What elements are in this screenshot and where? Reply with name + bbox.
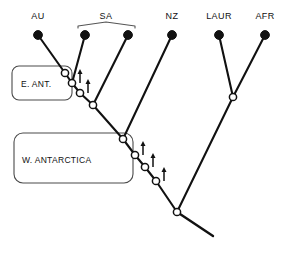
bracket-label-sa: SA — [100, 11, 113, 21]
root-stem-group — [177, 212, 213, 236]
sa-grouping-bracket — [78, 22, 135, 28]
tip-label-nz: NZ — [166, 11, 179, 21]
internal-node-n8 — [152, 177, 159, 184]
branch-b-n4-n5 — [93, 105, 123, 139]
tip-label-laur: LAUR — [206, 11, 232, 21]
internal-node-n1 — [61, 69, 68, 76]
internal-node-n6 — [131, 151, 138, 158]
node-arrow-head-n6 — [141, 141, 146, 146]
tip-dot-afr — [261, 31, 270, 40]
tip-dot-laur — [215, 31, 224, 40]
callout-label-w-antarctica: W. ANTARCTICA — [22, 155, 91, 165]
internal-node-n4 — [89, 101, 96, 108]
branch-b-sa1-n2 — [72, 35, 85, 83]
internal-node-n9 — [173, 208, 180, 215]
node-arrow-head-n7 — [151, 153, 156, 158]
cladogram-figure: AUNZLAURAFRSAE. ANT.W. ANTARCTICA — [0, 0, 287, 254]
tip-label-au: AU — [31, 11, 44, 21]
tip-dot-sa1 — [81, 31, 90, 40]
branch-b-au-n1 — [38, 35, 65, 73]
tip-label-afr: AFR — [255, 11, 274, 21]
phylogenetic-tree-svg: AUNZLAURAFRSAE. ANT.W. ANTARCTICA — [0, 0, 287, 254]
callout-label-e-ant: E. ANT. — [21, 79, 51, 89]
branch-b-laur-n10 — [219, 35, 233, 97]
branch-b-sa2-n4 — [93, 35, 128, 105]
internal-node-n5 — [119, 135, 126, 142]
internal-node-n3 — [76, 89, 83, 96]
root-stem — [177, 212, 213, 236]
branches-group — [38, 35, 265, 212]
internal-node-n7 — [141, 163, 148, 170]
node-arrow-head-n8 — [162, 167, 167, 172]
terminal-tips-group — [34, 31, 270, 40]
internal-node-n2 — [68, 79, 75, 86]
node-arrow-head-n2 — [78, 69, 83, 74]
branch-b-n10-n9 — [177, 97, 233, 212]
branch-b-afr-n10 — [233, 35, 265, 97]
sa-bracket-group — [78, 22, 135, 28]
tip-dot-nz — [168, 31, 177, 40]
tip-dot-au — [34, 31, 43, 40]
internal-node-n10 — [229, 93, 236, 100]
branch-b-n8-n9 — [156, 181, 177, 212]
tip-dot-sa2 — [124, 31, 133, 40]
node-arrow-head-n3 — [86, 79, 91, 84]
branch-b-nz-n5 — [123, 35, 172, 139]
